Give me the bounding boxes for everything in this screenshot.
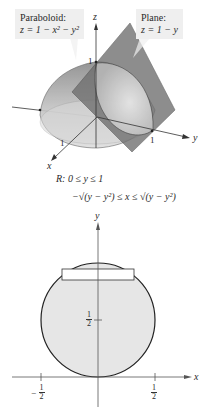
y-tick-half: 12 — [86, 311, 92, 328]
x-tick-pos-half: 12 — [151, 384, 157, 401]
x-axis-label-2d: x — [194, 371, 198, 383]
y-axis-arrow-2d — [96, 222, 100, 230]
figure-2d-graphic — [0, 0, 204, 418]
x-tick-neg-half: − 12 — [31, 384, 45, 401]
y-axis-label-2d: y — [95, 210, 99, 222]
x-axis-arrow-2d — [184, 375, 192, 379]
